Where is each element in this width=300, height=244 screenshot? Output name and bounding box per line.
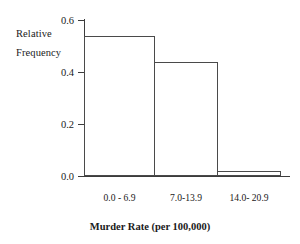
x-axis-label-text: Murder Rate (per 100,000) [90,221,210,232]
y-tick-label-0.6: 0.6 [50,15,74,26]
x-tick-label-0: 0.0 - 6.9 [84,192,155,203]
y-axis-label-line-2: Frequency [16,43,74,62]
y-tick-label-0.4: 0.4 [50,67,74,78]
x-axis-line [78,176,290,177]
bar-0 [84,36,155,176]
bar-1 [154,62,218,176]
y-tick-label-0.0: 0.0 [50,171,74,182]
x-tick-label-2: 14.0- 20.9 [217,192,281,203]
y-tick-label-0.2: 0.2 [50,119,74,130]
y-axis-label-line-1: Relative [16,24,74,43]
x-tick-label-1: 7.0-13.9 [154,192,218,203]
plot-area [84,20,281,176]
histogram-figure: Relative Frequency 0.6 0.4 0.2 0.0 0.0 -… [0,0,300,244]
bar-2 [217,171,281,176]
y-axis-label: Relative Frequency [16,24,74,62]
x-axis-label: Murder Rate (per 100,000) [0,221,300,233]
